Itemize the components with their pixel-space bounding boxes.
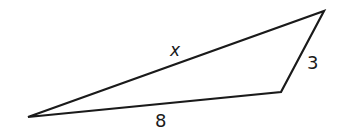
side-label-3: 3: [307, 52, 318, 73]
side-label-x: x: [169, 40, 181, 60]
triangle-diagram: x 3 8: [0, 0, 343, 133]
side-label-8: 8: [155, 110, 166, 131]
triangle-shape: [28, 11, 324, 117]
